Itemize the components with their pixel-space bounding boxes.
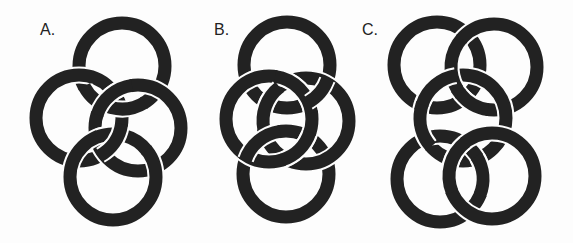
interlocking-rings-figure: A. B. C.	[0, 0, 573, 243]
ring-panel-b	[226, 22, 349, 217]
panel-label-a: A.	[40, 22, 55, 38]
ring-panel-c	[394, 22, 537, 222]
panel-label-c: C.	[362, 22, 378, 38]
ring-panel-a	[36, 23, 181, 220]
panel-label-b: B.	[214, 22, 229, 38]
rings-canvas	[0, 0, 573, 243]
